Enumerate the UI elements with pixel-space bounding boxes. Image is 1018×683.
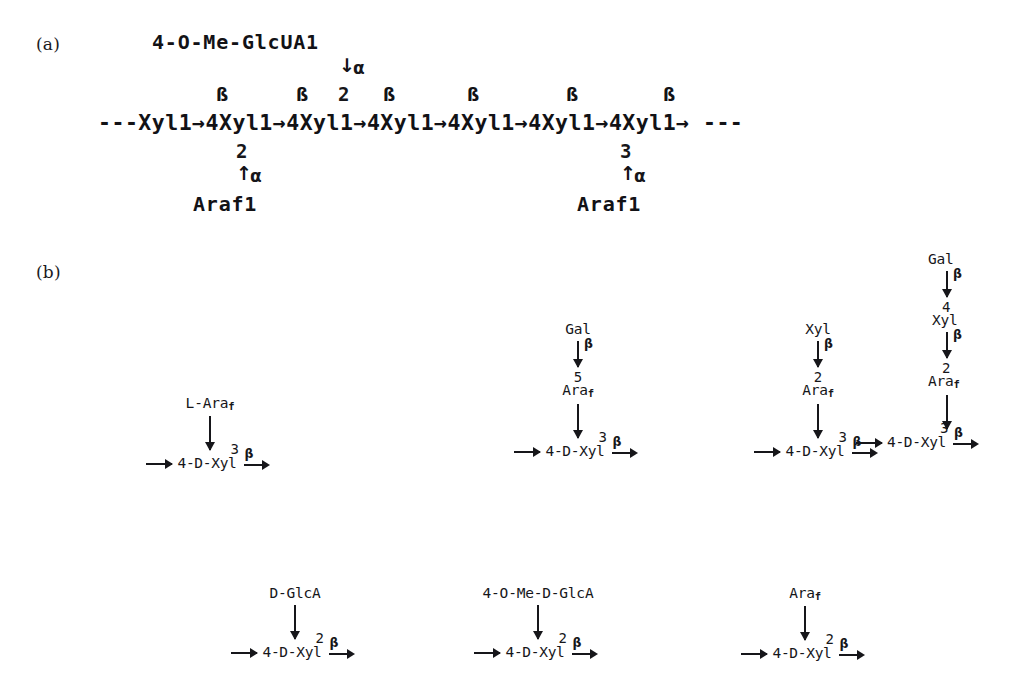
down-arrow-icon bbox=[804, 606, 806, 640]
b5-backbone-text: 2 4-D-Xyl bbox=[262, 644, 321, 660]
incoming-arrow-icon bbox=[474, 652, 500, 654]
b4-link-2-label: β bbox=[953, 329, 962, 342]
panel-a-branch-2-anomeric: α bbox=[634, 166, 646, 186]
down-arrow-icon: β bbox=[946, 332, 948, 358]
incoming-arrow-icon bbox=[754, 451, 780, 453]
down-arrow-icon bbox=[537, 605, 539, 639]
b7-residue-1: Araf bbox=[789, 586, 821, 602]
panel-a-beta-2: ß bbox=[296, 85, 308, 105]
down-arrow-icon bbox=[577, 404, 579, 438]
b2-backbone: 3 4-D-Xyl β bbox=[514, 441, 641, 459]
panel-a-beta-3: ß bbox=[383, 85, 395, 105]
b2-residue-1: Gal bbox=[565, 322, 591, 337]
b7-backbone: 2 4-D-Xyl β bbox=[741, 643, 868, 661]
b1-residue-1: L-Araf bbox=[186, 396, 235, 412]
b4-residue-2: Xyl bbox=[932, 313, 958, 328]
b6-backbone-text: 2 4-D-Xyl bbox=[505, 644, 564, 660]
outgoing-arrow-icon: β bbox=[612, 441, 642, 459]
down-arrow-icon: β bbox=[946, 271, 948, 297]
panel-a-label: (a) bbox=[36, 34, 60, 54]
panel-a-branch-1-residue: Araf1 bbox=[193, 192, 257, 216]
panel-a-beta-5: ß bbox=[566, 85, 578, 105]
b3-residue-2: Araf bbox=[802, 383, 834, 399]
panel-a-beta-4: ß bbox=[467, 85, 479, 105]
b4-residue-3: Araf bbox=[928, 374, 960, 390]
b1-backbone-text: 3 4-D-Xyl bbox=[177, 455, 236, 471]
incoming-arrow-icon bbox=[514, 451, 540, 453]
b3-backbone-text: 3 4-D-Xyl bbox=[785, 443, 844, 459]
panel-a-branch-1-position: 2 bbox=[236, 140, 247, 162]
panel-a-beta-1: ß bbox=[216, 85, 228, 105]
panel-b: (b) L-Araf 3 4-D-Xyl β Gal β 5 Ar bbox=[0, 246, 1018, 683]
incoming-arrow-icon bbox=[856, 442, 882, 444]
b1-backbone: 3 4-D-Xyl β bbox=[146, 453, 273, 471]
b2-backbone-text: 3 4-D-Xyl bbox=[545, 443, 604, 459]
down-arrow-icon bbox=[209, 416, 211, 450]
structure-b4: Gal β 4 Xyl β 2 Araf 3 4-D-Xyl β bbox=[962, 252, 1018, 450]
b3-residue-1: Xyl bbox=[805, 322, 831, 337]
b2-link-1-label: β bbox=[584, 338, 593, 351]
down-arrow-icon: β bbox=[577, 341, 579, 367]
structure-b2: Gal β 5 Araf 3 4-D-Xyl β bbox=[478, 322, 678, 459]
incoming-arrow-icon bbox=[231, 652, 257, 654]
panel-a-top-position: 2 bbox=[338, 83, 349, 105]
b4-link-1-label: β bbox=[953, 268, 962, 281]
b5-backbone: 2 4-D-Xyl β bbox=[231, 642, 358, 660]
b5-residue-1: D-GlcA bbox=[269, 586, 320, 601]
panel-b-label: (b) bbox=[36, 262, 61, 282]
incoming-arrow-icon bbox=[146, 463, 172, 465]
structure-b1: L-Araf 3 4-D-Xyl β bbox=[110, 396, 310, 471]
b2-residue-2: Araf bbox=[562, 383, 594, 399]
panel-a-branch-2-residue: Araf1 bbox=[577, 192, 641, 216]
panel-a: (a) 4-O-Me-GlcUA1 ↓ α 2 ß ß ß ß ß ß ---X… bbox=[0, 0, 1018, 240]
b4-residue-1: Gal bbox=[928, 252, 954, 267]
b3-link-1-label: β bbox=[824, 338, 833, 351]
b4-backbone: 3 4-D-Xyl β bbox=[856, 432, 983, 450]
b7-backbone-text: 2 4-D-Xyl bbox=[772, 645, 831, 661]
panel-a-beta-6: ß bbox=[663, 85, 675, 105]
incoming-arrow-icon bbox=[741, 653, 767, 655]
panel-a-top-residue: 4-O-Me-GlcUA1 bbox=[152, 30, 319, 54]
structure-b5: D-GlcA 2 4-D-Xyl β bbox=[195, 586, 395, 660]
outgoing-arrow-icon: β bbox=[953, 432, 983, 450]
outgoing-arrow-icon: β bbox=[839, 643, 869, 661]
down-arrow-icon bbox=[294, 605, 296, 639]
structure-b7: Araf 2 4-D-Xyl β bbox=[705, 586, 905, 661]
panel-a-top-anomeric: α bbox=[353, 58, 365, 78]
panel-a-branch-1-anomeric: α bbox=[250, 166, 262, 186]
down-arrow-icon bbox=[817, 404, 819, 438]
b6-backbone: 2 4-D-Xyl β bbox=[474, 642, 601, 660]
outgoing-arrow-icon: β bbox=[244, 453, 274, 471]
outgoing-arrow-icon: β bbox=[572, 642, 602, 660]
panel-a-branch-2-position: 3 bbox=[620, 140, 631, 162]
down-arrow-icon: β bbox=[817, 341, 819, 367]
b6-residue-1: 4-O-Me-D-GlcA bbox=[483, 586, 594, 601]
b4-backbone-text: 3 4-D-Xyl bbox=[887, 434, 946, 450]
structure-b6: 4-O-Me-D-GlcA 2 4-D-Xyl β bbox=[438, 586, 638, 660]
outgoing-arrow-icon: β bbox=[329, 642, 359, 660]
panel-a-backbone: ---Xyl1→4Xyl1→4Xyl1→4Xyl1→4Xyl1→4Xyl1→4X… bbox=[98, 110, 743, 135]
